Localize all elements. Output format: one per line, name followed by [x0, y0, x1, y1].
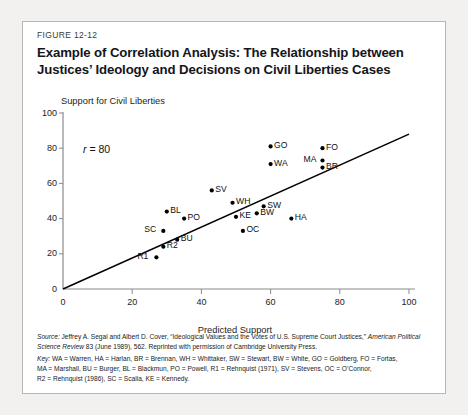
y-tick-80: 80 — [31, 143, 57, 153]
key-line-3-row: R2 = Rehnquist (1986), SC = Scalia, KE =… — [37, 374, 435, 384]
x-tick-20: 20 — [119, 297, 145, 307]
scatter-point-po — [182, 217, 186, 221]
y-tick-100: 100 — [31, 108, 57, 118]
figure-notes: Source: Jeffrey A. Segal and Albert D. C… — [37, 332, 435, 384]
point-label-go: GO — [274, 140, 287, 150]
point-label-po: PO — [188, 212, 200, 222]
scatter-point-bl — [165, 209, 169, 213]
y-tick-20: 20 — [31, 248, 57, 258]
scatter-point-r1 — [154, 255, 158, 259]
point-label-ma: MA — [304, 154, 317, 164]
key-line-1: WA = Warren, HA = Harlan, BR = Brennan, … — [50, 355, 397, 362]
point-label-r2: R2 — [167, 240, 178, 250]
point-label-bl: BL — [170, 205, 181, 215]
x-tick-0: 0 — [50, 297, 76, 307]
key-line-2-row: MA = Marshall, BU = Burger, BL = Blackmu… — [37, 364, 435, 374]
scatter-point-sv — [210, 188, 214, 192]
x-tick-60: 60 — [258, 297, 284, 307]
y-tick-0: 0 — [31, 284, 57, 294]
x-tick-40: 40 — [188, 297, 214, 307]
point-label-sw: SW — [267, 200, 281, 210]
y-tick-40: 40 — [31, 213, 57, 223]
scatter-point-r2 — [161, 245, 165, 249]
scatter-point-bw — [255, 211, 259, 215]
point-label-oc: OC — [246, 224, 259, 234]
point-label-ke: KE — [240, 210, 251, 220]
scatter-point-oc — [241, 229, 245, 233]
point-label-br: BR — [326, 161, 338, 171]
trend-line — [63, 134, 409, 289]
point-label-fo: FO — [326, 142, 338, 152]
key-note: Key: WA = Warren, HA = Harlan, BR = Bren… — [37, 354, 435, 364]
point-label-wh: WH — [236, 196, 250, 206]
scatter-point-fo — [320, 146, 324, 150]
source-text-2: 83 (June 1989), 562. Reprinted with perm… — [84, 343, 317, 350]
scatter-point-br — [320, 165, 324, 169]
scatter-point-sc — [161, 229, 165, 233]
point-label-r1: R1 — [137, 251, 148, 261]
point-label-sv: SV — [215, 184, 226, 194]
point-label-sc: SC — [144, 224, 156, 234]
scatter-point-ma — [320, 158, 324, 162]
scatter-point-ha — [289, 217, 293, 221]
source-note: Source: Jeffrey A. Segal and Albert D. C… — [37, 332, 435, 352]
scatter-point-go — [269, 144, 273, 148]
key-label: Key: — [37, 355, 50, 362]
x-tick-100: 100 — [396, 297, 422, 307]
source-text-1: Jeffrey A. Segal and Albert D. Cover, “I… — [60, 333, 368, 340]
source-label: Source: — [37, 333, 60, 340]
x-tick-80: 80 — [327, 297, 353, 307]
scatter-point-ke — [234, 215, 238, 219]
scatter-point-wh — [230, 201, 234, 205]
scatter-point-wa — [269, 162, 273, 166]
point-label-bu: BU — [181, 233, 193, 243]
y-tick-60: 60 — [31, 178, 57, 188]
point-label-ha: HA — [295, 212, 307, 222]
point-label-wa: WA — [274, 158, 288, 168]
figure-card: FIGURE 12-12 Example of Correlation Anal… — [22, 21, 446, 394]
